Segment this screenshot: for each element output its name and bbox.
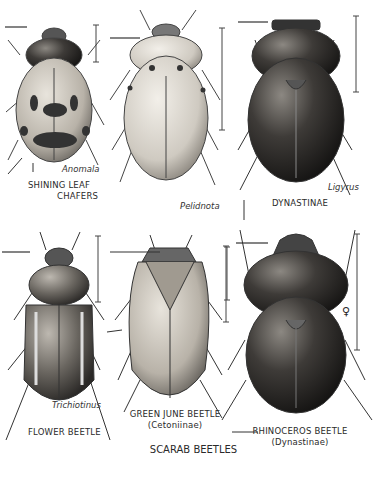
genus-label-anomala: Anomala xyxy=(62,164,99,174)
common-name-flower-beetle: FLOWER BEETLE xyxy=(28,427,101,437)
beetle-pelidnota xyxy=(110,10,220,185)
beetle-ligyrus xyxy=(238,20,352,195)
figure-title: SCARAB BEETLES xyxy=(0,444,387,455)
common-name-green-june-beetle: GREEN JUNE BEETLE xyxy=(125,409,225,419)
genus-label-trichiotinus: Trichiotinus xyxy=(52,400,101,410)
common-name-rhinoceros-beetle: RHINOCEROS BEETLE xyxy=(245,426,355,436)
beetle-anomala xyxy=(6,28,104,165)
group-label-shining-leaf-line2: CHAFERS xyxy=(57,191,98,201)
beetle-rhinoceros xyxy=(222,230,372,420)
genus-label-pelidnota: Pelidnota xyxy=(180,201,220,211)
genus-label-ligyrus: Ligyrus xyxy=(328,182,359,192)
female-symbol: ♀ xyxy=(342,307,350,317)
group-label-dynastinae: DYNASTINAE xyxy=(272,198,328,208)
beetle-green-june xyxy=(115,235,222,418)
subfamily-cetoniinae: (Cetoniinae) xyxy=(125,420,225,430)
group-label-shining-leaf-line1: SHINING LEAF xyxy=(28,180,90,190)
